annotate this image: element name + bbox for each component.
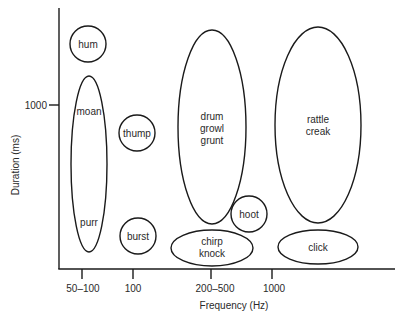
region-hum: hum bbox=[70, 26, 106, 62]
x-tick-label-50-100: 50–100 bbox=[66, 283, 100, 294]
label-creak: creak bbox=[306, 126, 331, 137]
label-click: click bbox=[308, 242, 328, 253]
x-tick-label-200-500: 200–500 bbox=[196, 283, 235, 294]
rattle-creak-ellipse bbox=[275, 27, 361, 223]
region-rattle-creak: rattle creak bbox=[275, 27, 361, 223]
region-hoot: hoot bbox=[231, 196, 267, 232]
label-burst: burst bbox=[127, 231, 149, 242]
x-tick-label-100: 100 bbox=[125, 283, 142, 294]
label-knock: knock bbox=[199, 248, 226, 259]
region-click: click bbox=[278, 230, 358, 264]
x-tick-label-1000: 1000 bbox=[263, 283, 286, 294]
label-rattle: rattle bbox=[307, 114, 330, 125]
label-moan: moan bbox=[76, 106, 101, 117]
label-grunt: grunt bbox=[201, 135, 224, 146]
y-axis-label: Duration (ms) bbox=[10, 135, 21, 196]
label-drum: drum bbox=[201, 111, 224, 122]
label-growl: growl bbox=[200, 123, 224, 134]
sound-diagram: 1000 Duration (ms) 50–100 100 200–500 10… bbox=[0, 0, 404, 321]
label-thump: thump bbox=[123, 128, 151, 139]
region-thump: thump bbox=[119, 115, 155, 151]
x-axis-label: Frequency (Hz) bbox=[200, 300, 269, 311]
region-chirp-knock: chirp knock bbox=[171, 230, 253, 266]
label-hum: hum bbox=[78, 39, 97, 50]
label-chirp: chirp bbox=[201, 236, 223, 247]
region-burst: burst bbox=[120, 218, 156, 254]
label-purr: purr bbox=[80, 217, 98, 228]
y-tick-label-1000: 1000 bbox=[25, 100, 48, 111]
region-moan-purr: moan purr bbox=[71, 76, 107, 252]
region-drum-growl-grunt: drum growl grunt bbox=[178, 30, 246, 224]
label-hoot: hoot bbox=[239, 209, 259, 220]
